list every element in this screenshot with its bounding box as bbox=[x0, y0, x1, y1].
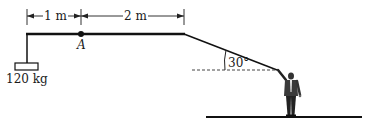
arrowhead-right-icon bbox=[177, 14, 184, 19]
mass-block bbox=[15, 63, 38, 70]
point-label-a: A bbox=[77, 39, 86, 51]
arrowhead-right-icon bbox=[74, 14, 81, 19]
angle-label: 30° bbox=[228, 57, 249, 69]
arrowhead-left-icon bbox=[27, 14, 34, 19]
arrowhead-left-icon bbox=[81, 14, 88, 19]
man-figure-icon bbox=[278, 70, 301, 117]
pivot-point-a bbox=[78, 31, 84, 37]
mass-label: 120 kg bbox=[6, 73, 48, 85]
dimension-label-1m: 1 m bbox=[43, 10, 68, 22]
dimension-label-2m: 2 m bbox=[123, 10, 148, 22]
angle-arc bbox=[224, 50, 226, 70]
